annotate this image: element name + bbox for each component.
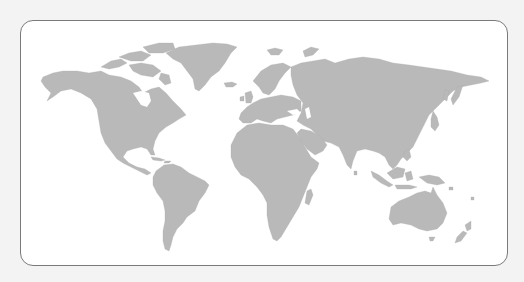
region-south-america[interactable] [153, 164, 209, 251]
world-map-panel [20, 20, 508, 266]
region-oceania[interactable] [389, 187, 474, 243]
world-map [20, 20, 508, 266]
region-north-america[interactable] [41, 43, 186, 175]
